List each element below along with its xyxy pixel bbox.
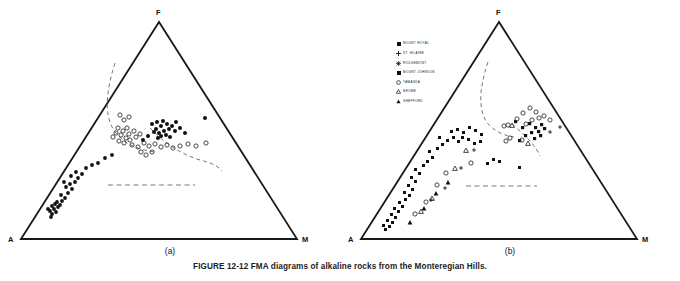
- ternary-diagram-b: F A M (b) MOUNT ROYAL ST. HILAIRE: [340, 0, 680, 281]
- filled-triangle-icon: [394, 99, 403, 104]
- filled-square-icon: [394, 71, 403, 75]
- legend-item-mount-royal: MOUNT ROYAL: [394, 40, 435, 48]
- legend-label-shefford: SHEFFORD: [403, 100, 423, 104]
- panel-b-label: (b): [340, 246, 680, 256]
- legend-label-brome: BROME: [403, 90, 416, 94]
- legend-label-yamaska: YAMASKA: [403, 80, 420, 84]
- panel-a-label: (a): [0, 246, 340, 256]
- plus-icon: [394, 51, 403, 56]
- legend-item-yamaska: YAMASKA: [394, 78, 435, 86]
- legend: MOUNT ROYAL ST. HILAIRE ROUGEMONT: [394, 40, 435, 107]
- filled-square-icon: [394, 42, 403, 46]
- open-circle-icon: [394, 80, 403, 85]
- legend-label-st-hilaire: ST. HILAIRE: [403, 52, 424, 56]
- legend-item-st-hilaire: ST. HILAIRE: [394, 50, 435, 58]
- data-points-triangles-filled-b: [408, 180, 451, 224]
- ternary-plot-b-svg: [340, 0, 680, 260]
- legend-item-rougemont: ROUGEMONT: [394, 59, 435, 67]
- legend-label-mount-johnson: MOUNT JOHNSON: [403, 71, 435, 75]
- trend-curve-upper-b: [481, 62, 514, 137]
- vertex-label-a-b: A: [348, 235, 354, 244]
- ternary-diagram-a: F A M (a): [0, 0, 340, 281]
- data-points-squares-cluster-b: [514, 120, 546, 142]
- data-points-filled-a: [46, 153, 114, 219]
- legend-label-rougemont: ROUGEMONT: [403, 61, 427, 65]
- vertex-label-a-a: A: [8, 235, 14, 244]
- ternary-plot-a-svg: [0, 0, 340, 260]
- legend-item-mount-johnson: MOUNT JOHNSON: [394, 69, 435, 77]
- vertex-label-f-b: F: [496, 8, 501, 17]
- vertex-label-f-a: F: [156, 8, 161, 17]
- asterisk-icon: [394, 61, 403, 66]
- vertex-label-m-b: M: [642, 235, 648, 244]
- open-triangle-icon: [394, 89, 403, 94]
- legend-item-shefford: SHEFFORD: [394, 98, 435, 106]
- vertex-label-m-a: M: [302, 235, 308, 244]
- data-points-squares-b: [382, 126, 521, 231]
- figure-root: F A M (a): [0, 0, 680, 281]
- legend-item-brome: BROME: [394, 88, 435, 96]
- legend-label-mount-royal: MOUNT ROYAL: [403, 42, 429, 46]
- figure-caption: FIGURE 12-12 FMA diagrams of alkaline ro…: [0, 262, 680, 281]
- triangle-outline-a: [21, 22, 297, 239]
